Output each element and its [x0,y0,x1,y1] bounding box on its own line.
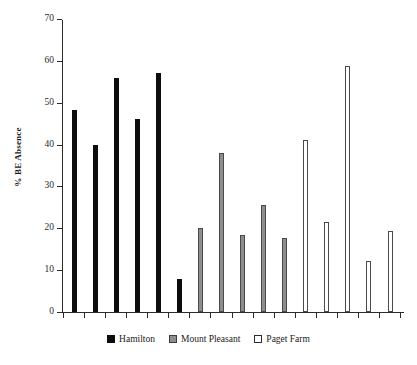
bar-paget-farm [303,140,308,312]
y-axis-tick: 50 [57,103,62,104]
legend-swatch-paget-farm [254,335,262,343]
x-axis-tick [337,313,338,318]
x-axis-tick [400,313,401,318]
y-axis-tick: 70 [57,19,62,20]
bar-paget-farm [324,222,329,312]
legend-item-mount-pleasant[interactable]: Mount Pleasant [169,334,240,344]
legend-swatch-hamilton [107,335,115,343]
x-axis-line [62,312,404,313]
y-axis-tick-label: 30 [45,179,55,192]
y-axis-tick-label: 10 [45,263,55,276]
y-axis-title-label: % BE Absence [13,127,23,186]
bar-mount-pleasant [282,238,287,312]
x-axis-tick [358,313,359,318]
y-axis-tick-label: 20 [45,221,55,234]
y-axis-tick-label: 50 [45,96,55,109]
x-axis-tick [316,313,317,318]
y-axis-tick: 10 [57,270,62,271]
bar-hamilton [156,73,161,312]
x-axis-tick [126,313,127,318]
legend-item-paget-farm[interactable]: Paget Farm [254,334,310,344]
x-axis-tick [232,313,233,318]
bar-paget-farm [345,66,350,312]
legend-item-hamilton[interactable]: Hamilton [107,334,155,344]
x-axis-tick [379,313,380,318]
x-axis-tick [189,313,190,318]
y-axis-tick: 30 [57,186,62,187]
y-axis-tick-label: 70 [45,12,55,25]
bar-hamilton [72,110,77,312]
y-axis-tick: 60 [57,61,62,62]
bar-chart-figure: % BE Absence 010203040506070 HamiltonMou… [0,0,417,365]
bar-hamilton [114,78,119,312]
x-axis-tick [105,313,106,318]
x-axis-tick [295,313,296,318]
x-axis-tick [63,313,64,318]
legend-label: Paget Farm [266,334,310,344]
x-axis-tick [210,313,211,318]
legend-label: Mount Pleasant [181,334,240,344]
y-axis-tick-label: 0 [49,305,54,318]
x-axis-tick [168,313,169,318]
bar-hamilton [177,279,182,312]
bar-mount-pleasant [219,153,224,312]
plot-area: 010203040506070 [62,20,404,313]
legend-swatch-mount-pleasant [169,335,177,343]
x-axis-tick [274,313,275,318]
bar-mount-pleasant [261,205,266,312]
bar-paget-farm [366,261,371,312]
bar-hamilton [135,119,140,312]
x-axis-tick [84,313,85,318]
y-axis-tick-label: 40 [45,138,55,151]
y-axis-tick-label: 60 [45,54,55,67]
y-axis-title: % BE Absence [6,0,30,313]
chart-legend: HamiltonMount PleasantPaget Farm [0,334,417,344]
x-axis-tick [253,313,254,318]
bar-mount-pleasant [240,235,245,312]
y-axis-tick: 40 [57,145,62,146]
bar-paget-farm [388,231,393,312]
y-axis-tick: 20 [57,228,62,229]
y-axis-tick: 0 [57,312,62,313]
bar-hamilton [93,145,98,312]
x-axis-tick [147,313,148,318]
bar-mount-pleasant [198,228,203,312]
y-axis-line [62,20,63,313]
legend-label: Hamilton [119,334,155,344]
